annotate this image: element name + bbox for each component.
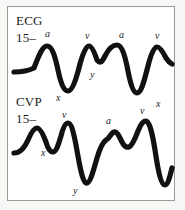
ecg-title-label: ECG (16, 14, 43, 27)
cvp-y-descent-label-1: y (73, 186, 77, 196)
ecg-scale-label: 15– (16, 31, 36, 44)
ecg-x-descent-label-1: x (56, 93, 60, 103)
ecg-a-wave-label-2: a (119, 30, 124, 40)
ecg-v-wave-label-2: v (155, 31, 159, 41)
ecg-y-descent-label-1: y (90, 70, 94, 80)
cvp-trace-path (14, 121, 172, 185)
cvp-a-wave-label-2: a (106, 116, 111, 126)
cvp-v-wave-label-1: v (62, 110, 66, 120)
figure-root: ECG 15– a v y x a v x CVP 15– v x y a v (0, 0, 185, 210)
ecg-a-wave-label-1: a (45, 29, 50, 39)
cvp-scale-label: 15– (16, 112, 36, 125)
cvp-title-label: CVP (16, 95, 42, 108)
cvp-v-wave-label-2: v (140, 106, 144, 116)
ecg-v-wave-label-1: v (85, 31, 89, 41)
cvp-x-descent-label-1: x (41, 148, 45, 158)
ecg-x-descent-label-2: x (156, 99, 160, 109)
